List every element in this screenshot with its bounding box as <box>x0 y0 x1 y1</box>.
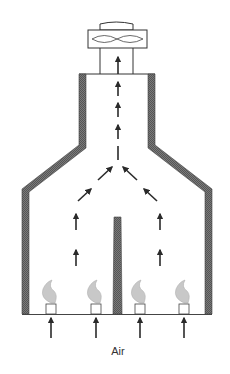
burner-4 <box>175 280 189 314</box>
flame-icon <box>87 280 101 303</box>
left-wall <box>22 74 86 314</box>
center-baffle <box>113 217 122 314</box>
furnace-diagram <box>0 0 230 374</box>
flame-icon <box>42 280 56 303</box>
burner-3 <box>131 280 145 314</box>
burner-1 <box>42 280 56 314</box>
flame-icon <box>175 280 189 303</box>
burner-2 <box>87 280 101 314</box>
right-wall <box>148 74 212 314</box>
flame-icon <box>131 280 145 303</box>
air-label: Air <box>111 345 124 357</box>
